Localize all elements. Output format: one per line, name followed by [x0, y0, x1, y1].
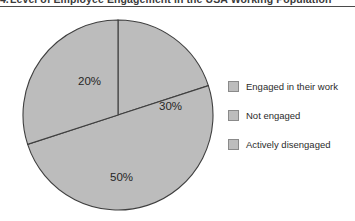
legend-item-engaged: Engaged in their work — [228, 79, 355, 94]
legend-swatch-icon — [228, 110, 239, 121]
header-divider — [0, 6, 355, 7]
figure-number: 4. — [0, 0, 9, 5]
legend-item-actively-disengaged: Actively disengaged — [228, 137, 355, 152]
pie-label-engaged: 30% — [159, 100, 182, 112]
legend-item-not-engaged: Not engaged — [228, 108, 355, 123]
pie-label-actively-disengaged: 50% — [110, 171, 133, 183]
legend-item-label: Engaged in their work — [246, 82, 338, 92]
pie-chart: 30% 50% 20% — [22, 19, 214, 211]
legend-swatch-icon — [228, 139, 239, 150]
legend-item-label: Not engaged — [246, 111, 300, 121]
page-title: Level of Employee Engagement in the USA … — [10, 0, 331, 5]
figure-container: 4. Level of Employee Engagement in the U… — [0, 0, 355, 221]
legend-item-label: Actively disengaged — [246, 140, 331, 150]
pie-label-not-engaged: 20% — [78, 75, 101, 87]
chart-legend: Engaged in their work Not engaged Active… — [228, 79, 355, 166]
legend-swatch-icon — [228, 81, 239, 92]
